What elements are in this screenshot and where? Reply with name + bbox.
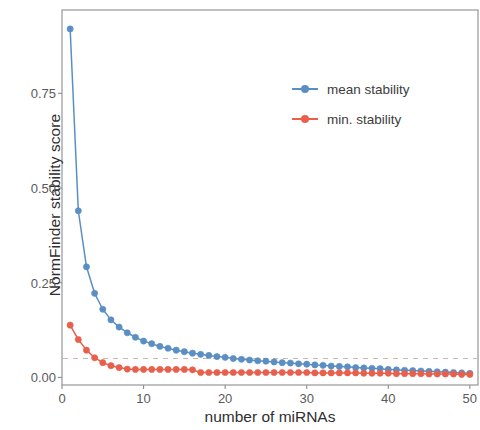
data-point <box>467 371 473 377</box>
data-point <box>271 369 277 375</box>
data-point <box>75 336 81 342</box>
data-point <box>247 357 253 363</box>
data-point <box>165 345 171 351</box>
x-axis-tick-label: 40 <box>368 391 408 406</box>
chart-legend: mean stability min. stability <box>292 78 410 138</box>
data-point <box>75 208 81 214</box>
data-point <box>140 338 146 344</box>
data-point <box>157 343 163 349</box>
data-point <box>336 370 342 376</box>
data-point <box>165 366 171 372</box>
data-point <box>312 362 318 368</box>
data-point <box>369 370 375 376</box>
panel-border <box>62 10 478 385</box>
data-point <box>181 349 187 355</box>
data-point <box>434 371 440 377</box>
data-point <box>312 370 318 376</box>
data-point <box>328 363 334 369</box>
data-point <box>83 347 89 353</box>
data-point <box>344 370 350 376</box>
data-point <box>100 306 106 312</box>
data-point <box>92 355 98 361</box>
data-point <box>255 369 261 375</box>
legend-label-min-stability: min. stability <box>327 112 401 127</box>
data-point <box>92 290 98 296</box>
data-point <box>295 369 301 375</box>
data-point <box>189 367 195 373</box>
data-point <box>198 351 204 357</box>
data-point <box>124 366 130 372</box>
y-axis-tick-label: 0.75 <box>12 86 56 101</box>
data-point <box>198 369 204 375</box>
data-point <box>353 370 359 376</box>
y-axis-tick-labels: 0.000.250.500.75 <box>0 0 56 430</box>
data-point <box>263 358 269 364</box>
y-axis-tick-label: 0.50 <box>12 181 56 196</box>
data-point <box>304 361 310 367</box>
legend-item-min-stability[interactable]: min. stability <box>292 108 410 130</box>
data-point <box>459 371 465 377</box>
data-point <box>124 330 130 336</box>
data-point <box>173 366 179 372</box>
x-axis-title: number of miRNAs <box>62 408 478 426</box>
data-point <box>385 370 391 376</box>
data-point <box>426 371 432 377</box>
y-axis-tick-label: 0.25 <box>12 275 56 290</box>
data-point <box>149 366 155 372</box>
y-axis-tick-label: 0.00 <box>12 370 56 385</box>
data-point <box>83 264 89 270</box>
data-point <box>320 362 326 368</box>
x-axis-tick-label: 20 <box>205 391 245 406</box>
data-point <box>222 354 228 360</box>
data-point <box>222 369 228 375</box>
data-point <box>336 363 342 369</box>
chart-container: NormFinder stability score 0.000.250.500… <box>0 0 480 430</box>
x-axis-tick-label: 30 <box>287 391 327 406</box>
data-point <box>116 324 122 330</box>
data-point <box>214 353 220 359</box>
data-point <box>214 369 220 375</box>
data-point <box>206 369 212 375</box>
data-point <box>108 363 114 369</box>
data-point <box>230 369 236 375</box>
data-point <box>173 347 179 353</box>
x-axis-tick-label: 50 <box>450 391 480 406</box>
plot-panel <box>0 0 480 430</box>
data-point <box>181 366 187 372</box>
data-point <box>132 366 138 372</box>
data-point <box>189 350 195 356</box>
data-point <box>263 369 269 375</box>
data-point <box>287 369 293 375</box>
data-point <box>67 322 73 328</box>
data-point <box>450 371 456 377</box>
data-point <box>328 370 334 376</box>
data-point <box>230 355 236 361</box>
data-point <box>279 360 285 366</box>
data-point <box>157 366 163 372</box>
legend-key-min-stability-icon <box>292 112 318 126</box>
data-point <box>279 369 285 375</box>
data-point <box>149 341 155 347</box>
data-point <box>238 369 244 375</box>
legend-key-mean-stability-icon <box>292 82 318 96</box>
data-point <box>247 369 253 375</box>
legend-item-mean-stability[interactable]: mean stability <box>292 78 410 100</box>
data-point <box>255 358 261 364</box>
data-point <box>295 361 301 367</box>
data-point <box>132 334 138 340</box>
data-point <box>271 359 277 365</box>
data-point <box>287 360 293 366</box>
data-point <box>320 370 326 376</box>
data-point <box>418 371 424 377</box>
data-point <box>344 364 350 370</box>
data-point <box>377 370 383 376</box>
legend-label-mean-stability: mean stability <box>327 82 410 97</box>
data-point <box>361 370 367 376</box>
data-point <box>393 371 399 377</box>
x-axis-tick-label: 0 <box>42 391 82 406</box>
data-point <box>108 317 114 323</box>
data-point <box>100 360 106 366</box>
data-point <box>238 356 244 362</box>
x-axis-tick-label: 10 <box>124 391 164 406</box>
data-point <box>140 366 146 372</box>
